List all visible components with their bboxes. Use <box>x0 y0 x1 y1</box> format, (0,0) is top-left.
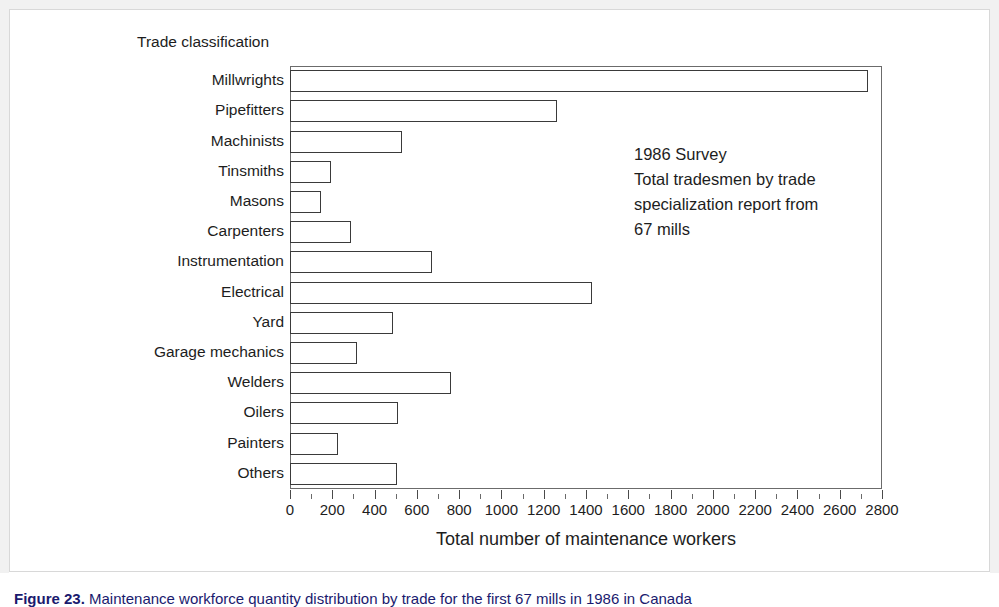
x-axis-tick-major <box>671 490 672 499</box>
x-axis-tick-major <box>586 490 587 499</box>
bar <box>290 221 351 243</box>
bar <box>290 191 321 213</box>
x-axis-tick-label: 2200 <box>738 501 771 518</box>
x-axis-tick-major <box>501 490 502 499</box>
bar <box>290 131 402 153</box>
bar <box>290 342 357 364</box>
y-axis-tick-label: Instrumentation <box>134 252 284 270</box>
x-axis-tick-minor <box>565 494 566 499</box>
figure-caption-text: Maintenance workforce quantity distribut… <box>89 590 692 607</box>
x-axis-tick-label: 1800 <box>654 501 687 518</box>
bar-row <box>290 342 882 364</box>
bar <box>290 70 868 92</box>
x-axis-tick-minor <box>396 494 397 499</box>
y-axis-tick-label: Electrical <box>134 283 284 301</box>
x-axis-tick-minor <box>734 494 735 499</box>
x-axis-tick-minor <box>649 494 650 499</box>
x-axis-tick-label: 2400 <box>781 501 814 518</box>
figure-caption: Figure 23. Maintenance workforce quantit… <box>14 590 989 607</box>
bar-row <box>290 100 882 122</box>
x-axis-tick-minor <box>776 494 777 499</box>
x-axis-tick-label: 1600 <box>612 501 645 518</box>
x-axis-tick-label: 2800 <box>865 501 898 518</box>
bar <box>290 251 432 273</box>
x-axis-title: Total number of maintenance workers <box>290 529 882 550</box>
bar <box>290 282 592 304</box>
x-axis-tick-major <box>417 490 418 499</box>
bar <box>290 161 331 183</box>
x-axis-tick-minor <box>523 494 524 499</box>
y-axis-tick-label: Pipefitters <box>134 101 284 119</box>
y-axis-tick-label: Tinsmiths <box>134 162 284 180</box>
x-axis-ticks <box>290 489 883 499</box>
bar-row <box>290 402 882 424</box>
x-axis-tick-minor <box>353 494 354 499</box>
bar-row <box>290 282 882 304</box>
x-axis-tick-minor <box>311 494 312 499</box>
x-axis-tick-label: 2000 <box>696 501 729 518</box>
x-axis-tick-label: 1200 <box>527 501 560 518</box>
x-axis-tick-minor <box>819 494 820 499</box>
y-axis-tick-label: Welders <box>134 373 284 391</box>
x-axis-tick-major <box>628 490 629 499</box>
x-axis-tick-major <box>797 490 798 499</box>
x-axis-tick-minor <box>438 494 439 499</box>
x-axis-tick-label: 800 <box>447 501 472 518</box>
y-axis-tick-label: Painters <box>134 434 284 452</box>
x-axis-tick-label: 200 <box>320 501 345 518</box>
bar-row <box>290 372 882 394</box>
y-axis-tick-label: Others <box>134 464 284 482</box>
y-axis-tick-label: Millwrights <box>134 71 284 89</box>
y-axis-tick-label: Masons <box>134 192 284 210</box>
y-axis-title: Trade classification <box>137 33 269 51</box>
x-axis-tick-label: 600 <box>404 501 429 518</box>
x-axis-tick-major <box>755 490 756 499</box>
y-axis-tick-labels: MillwrightsPipefittersMachinistsTinsmith… <box>132 66 284 489</box>
x-axis-tick-major <box>332 490 333 499</box>
x-axis-tick-major <box>375 490 376 499</box>
x-axis-tick-label: 2600 <box>823 501 856 518</box>
bar <box>290 100 557 122</box>
bar-row <box>290 312 882 334</box>
x-axis-tick-major <box>713 490 714 499</box>
y-axis-tick-label: Garage mechanics <box>134 343 284 361</box>
bar-row <box>290 463 882 485</box>
bar-row <box>290 433 882 455</box>
x-axis-tick-major <box>840 490 841 499</box>
x-axis-tick-minor <box>692 494 693 499</box>
bar <box>290 312 393 334</box>
x-axis-tick-major <box>882 490 883 499</box>
x-axis-tick-major <box>290 490 291 499</box>
x-axis-tick-label: 400 <box>362 501 387 518</box>
bar-row <box>290 251 882 273</box>
x-axis-tick-minor <box>607 494 608 499</box>
y-axis-tick-label: Machinists <box>134 132 284 150</box>
bar <box>290 433 338 455</box>
x-axis-tick-label: 1400 <box>569 501 602 518</box>
bar-chart: Trade classification MillwrightsPipefitt… <box>0 0 999 573</box>
x-axis-tick-label: 0 <box>286 501 294 518</box>
x-axis-tick-minor <box>480 494 481 499</box>
x-axis-tick-major <box>459 490 460 499</box>
y-axis-tick-label: Oilers <box>134 403 284 421</box>
x-axis-tick-minor <box>861 494 862 499</box>
x-axis-tick-label: 1000 <box>485 501 518 518</box>
y-axis-tick-label: Yard <box>134 313 284 331</box>
chart-annotation: 1986 Survey Total tradesmen by trade spe… <box>634 142 818 242</box>
bar <box>290 372 451 394</box>
bar <box>290 402 398 424</box>
bar <box>290 463 397 485</box>
bar-row <box>290 70 882 92</box>
plot-bars-layer <box>290 66 882 489</box>
figure-caption-label: Figure 23. <box>14 590 85 607</box>
y-axis-tick-label: Carpenters <box>134 222 284 240</box>
x-axis-tick-major <box>544 490 545 499</box>
